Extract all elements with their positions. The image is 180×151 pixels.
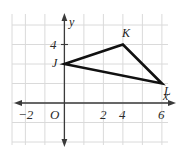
coordinate-grid-figure: J K L y x −2 O 2 4 6 4	[0, 0, 180, 151]
x-axis-label: x	[163, 90, 168, 102]
y-axis-arrow-up-icon	[62, 13, 68, 21]
x-tick-label-neg2: −2	[18, 108, 33, 121]
y-axis-label: y	[69, 16, 74, 28]
axes	[14, 13, 176, 147]
x-tick-label-4: 4	[119, 108, 126, 121]
x-tick-label-6: 6	[158, 108, 165, 121]
coordinate-plane-svg	[0, 0, 180, 151]
vertex-label-j: J	[52, 57, 57, 69]
vertex-label-k: K	[122, 27, 130, 39]
y-axis-arrow-down-icon	[62, 139, 68, 147]
y-tick-label-4: 4	[50, 38, 57, 51]
origin-label: O	[50, 108, 59, 121]
x-axis-arrow-right-icon	[168, 100, 176, 106]
x-axis-arrow-left-icon	[14, 100, 22, 106]
x-tick-label-2: 2	[100, 108, 107, 121]
